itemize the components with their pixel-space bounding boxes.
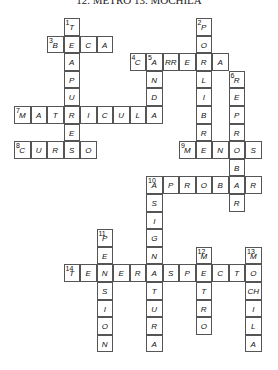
- crossword-cell[interactable]: 5A: [146, 53, 163, 71]
- crossword-cell[interactable]: L: [130, 106, 147, 124]
- crossword-cell[interactable]: C: [212, 264, 229, 282]
- crossword-cell[interactable]: A: [31, 106, 48, 124]
- crossword-cell[interactable]: E: [196, 141, 213, 159]
- crossword-cell[interactable]: R: [196, 53, 213, 71]
- crossword-cell[interactable]: A: [97, 36, 114, 54]
- crossword-cell[interactable]: O: [196, 176, 213, 194]
- crossword-cell[interactable]: C: [80, 36, 97, 54]
- crossword-cell[interactable]: 1T: [64, 18, 81, 36]
- crossword-cell[interactable]: G: [146, 229, 163, 247]
- crossword-cell[interactable]: T: [229, 264, 246, 282]
- crossword-cell[interactable]: N: [146, 71, 163, 89]
- crossword-cell[interactable]: 14T: [64, 264, 81, 282]
- cell-letter: E: [81, 269, 96, 278]
- cell-letter: N: [98, 269, 113, 278]
- crossword-cell[interactable]: U: [31, 141, 48, 159]
- cell-letter: T: [230, 269, 245, 278]
- crossword-cell[interactable]: R: [179, 176, 196, 194]
- crossword-cell[interactable]: 10A: [146, 176, 163, 194]
- crossword-cell[interactable]: S: [97, 282, 114, 300]
- crossword-cell[interactable]: 12M: [196, 247, 213, 265]
- crossword-cell[interactable]: R: [47, 141, 64, 159]
- cell-letter: S: [147, 199, 162, 208]
- crossword-cell[interactable]: A: [146, 335, 163, 353]
- crossword-cell[interactable]: S: [64, 141, 81, 159]
- crossword-cell[interactable]: E: [80, 264, 97, 282]
- crossword-cell[interactable]: N: [146, 247, 163, 265]
- crossword-cell[interactable]: E: [97, 247, 114, 265]
- crossword-cell[interactable]: A: [229, 176, 246, 194]
- crossword-cell[interactable]: O: [229, 141, 246, 159]
- crossword-cell[interactable]: O: [245, 264, 262, 282]
- crossword-cell[interactable]: U: [113, 106, 130, 124]
- crossword-cell[interactable]: 9M: [179, 141, 196, 159]
- crossword-cell[interactable]: 4C: [130, 53, 147, 71]
- crossword-cell[interactable]: R: [146, 317, 163, 335]
- crossword-cell[interactable]: T: [196, 282, 213, 300]
- cell-letter: O: [197, 322, 212, 331]
- crossword-cell[interactable]: D: [146, 88, 163, 106]
- crossword-cell[interactable]: N: [97, 335, 114, 353]
- cell-letter: S: [246, 146, 261, 155]
- crossword-cell[interactable]: 6R: [229, 71, 246, 89]
- crossword-cell[interactable]: S: [163, 264, 180, 282]
- crossword-cell[interactable]: L: [196, 71, 213, 89]
- crossword-cell[interactable]: 3B: [47, 36, 64, 54]
- crossword-cell[interactable]: E: [64, 124, 81, 142]
- crossword-cell[interactable]: O: [97, 317, 114, 335]
- crossword-cell[interactable]: S: [146, 194, 163, 212]
- crossword-cell[interactable]: R: [196, 300, 213, 318]
- crossword-cell[interactable]: E: [229, 88, 246, 106]
- crossword-cell[interactable]: A: [245, 335, 262, 353]
- crossword-cell[interactable]: N: [212, 141, 229, 159]
- crossword-cell[interactable]: I: [80, 106, 97, 124]
- crossword-cell[interactable]: E: [113, 264, 130, 282]
- crossword-cell[interactable]: R: [64, 106, 81, 124]
- crossword-cell[interactable]: B: [196, 106, 213, 124]
- crossword-cell[interactable]: T: [47, 106, 64, 124]
- crossword-cell[interactable]: RR: [163, 53, 180, 71]
- crossword-cell[interactable]: A: [212, 53, 229, 71]
- crossword-cell[interactable]: P: [64, 71, 81, 89]
- crossword-cell[interactable]: R: [245, 176, 262, 194]
- crossword-cell[interactable]: B: [229, 159, 246, 177]
- crossword-cell[interactable]: O: [196, 317, 213, 335]
- crossword-cell[interactable]: O: [196, 36, 213, 54]
- crossword-cell[interactable]: B: [212, 176, 229, 194]
- crossword-cell[interactable]: U: [64, 88, 81, 106]
- crossword-cell[interactable]: A: [146, 106, 163, 124]
- crossword-cell[interactable]: CH: [245, 282, 262, 300]
- crossword-cell[interactable]: C: [97, 106, 114, 124]
- crossword-cell[interactable]: R: [229, 124, 246, 142]
- crossword-cell[interactable]: I: [97, 300, 114, 318]
- crossword-cell[interactable]: I: [245, 300, 262, 318]
- crossword-cell[interactable]: I: [146, 212, 163, 230]
- crossword-cell[interactable]: A: [64, 53, 81, 71]
- crossword-cell[interactable]: S: [245, 141, 262, 159]
- crossword-cell[interactable]: P: [163, 176, 180, 194]
- crossword-cell[interactable]: I: [196, 88, 213, 106]
- crossword-cell[interactable]: L: [245, 317, 262, 335]
- crossword-cell[interactable]: N: [97, 264, 114, 282]
- crossword-cell[interactable]: P: [229, 106, 246, 124]
- crossword-cell[interactable]: R: [229, 194, 246, 212]
- crossword-cell[interactable]: O: [80, 141, 97, 159]
- crossword-cell[interactable]: 8C: [14, 141, 31, 159]
- crossword-cell[interactable]: E: [179, 53, 196, 71]
- crossword-grid: 1TEAPURE2PORLIBRE3BCA4C5ARREANDA6REPROBA…: [0, 0, 278, 370]
- crossword-cell[interactable]: 11P: [97, 229, 114, 247]
- crossword-cell[interactable]: 7M: [14, 106, 31, 124]
- crossword-cell[interactable]: P: [179, 264, 196, 282]
- crossword-cell[interactable]: 2P: [196, 18, 213, 36]
- crossword-cell[interactable]: R: [196, 124, 213, 142]
- cell-letter: R: [230, 199, 245, 208]
- crossword-cell[interactable]: U: [146, 300, 163, 318]
- crossword-cell[interactable]: E: [196, 264, 213, 282]
- crossword-cell[interactable]: E: [64, 36, 81, 54]
- crossword-cell[interactable]: A: [146, 264, 163, 282]
- cell-letter: A: [147, 340, 162, 349]
- crossword-cell[interactable]: T: [146, 282, 163, 300]
- crossword-cell[interactable]: 13M: [245, 247, 262, 265]
- crossword-cell[interactable]: R: [130, 264, 147, 282]
- cell-letter: P: [98, 234, 113, 243]
